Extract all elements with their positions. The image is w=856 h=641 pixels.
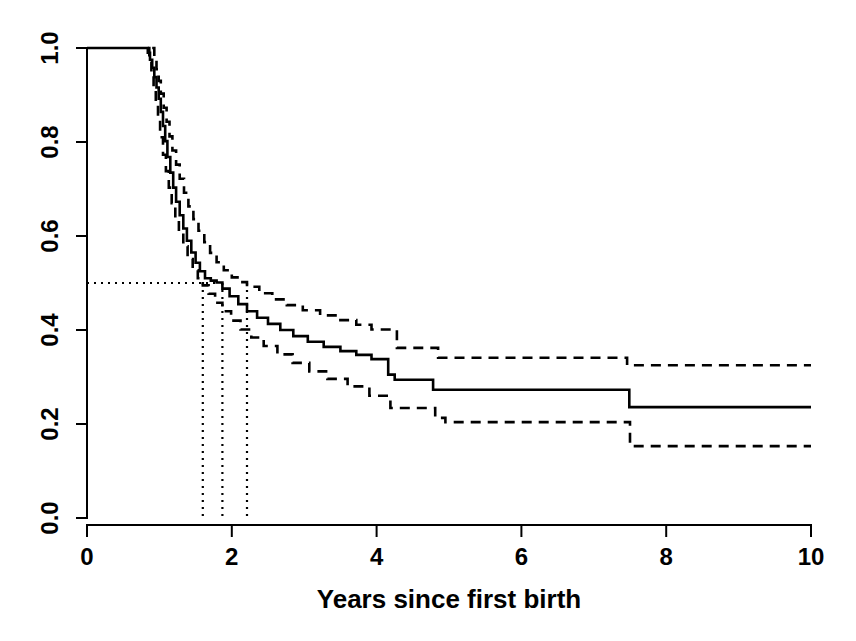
km-survival-chart: 02468100.00.20.40.60.81.0 Years since fi… bbox=[0, 0, 856, 641]
x-tick-label: 0 bbox=[80, 543, 93, 570]
km-plot-figure: 02468100.00.20.40.60.81.0 Years since fi… bbox=[0, 0, 856, 641]
x-tick-label: 8 bbox=[660, 543, 673, 570]
axes: 02468100.00.20.40.60.81.0 bbox=[36, 31, 825, 570]
y-tick-label: 0.4 bbox=[36, 313, 63, 347]
y-tick-label: 0.0 bbox=[36, 501, 63, 534]
median-annotation-lines bbox=[87, 283, 247, 518]
survival-estimate-curve bbox=[87, 48, 811, 407]
x-tick-label: 6 bbox=[515, 543, 528, 570]
survival-curves bbox=[87, 48, 811, 446]
x-tick-label: 2 bbox=[225, 543, 238, 570]
y-tick-label: 0.8 bbox=[36, 125, 63, 158]
y-tick-label: 0.6 bbox=[36, 219, 63, 252]
lower-95-percent-ci-curve bbox=[148, 48, 811, 446]
x-tick-label: 4 bbox=[370, 543, 384, 570]
y-tick-label: 0.2 bbox=[36, 407, 63, 440]
x-axis-title: Years since first birth bbox=[317, 584, 581, 614]
upper-95-percent-ci-curve bbox=[152, 48, 811, 365]
y-tick-label: 1.0 bbox=[36, 31, 63, 64]
x-tick-label: 10 bbox=[798, 543, 825, 570]
